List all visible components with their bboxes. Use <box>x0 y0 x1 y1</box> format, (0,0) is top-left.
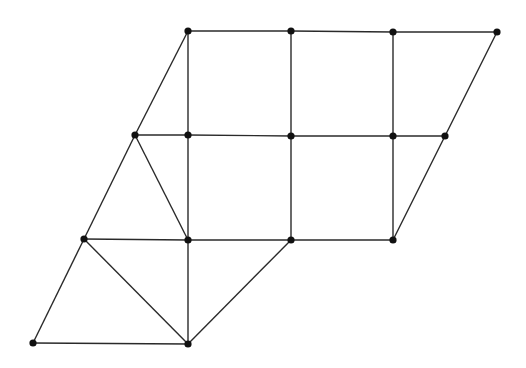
edge-e-j <box>84 135 135 239</box>
nodes-layer <box>29 27 500 347</box>
node-b <box>287 27 294 34</box>
edge-l-o <box>188 240 291 344</box>
edge-i-m <box>393 136 445 240</box>
node-h <box>389 132 396 139</box>
node-e <box>131 131 138 138</box>
node-k <box>184 236 191 243</box>
edge-d-i <box>445 32 497 136</box>
graph-diagram <box>0 0 526 368</box>
node-i <box>441 132 448 139</box>
node-l <box>287 236 294 243</box>
node-a <box>184 27 191 34</box>
node-c <box>389 28 396 35</box>
edge-a-e <box>135 31 188 135</box>
node-o <box>184 340 191 347</box>
node-j <box>80 235 87 242</box>
edge-j-o <box>84 239 188 344</box>
edge-j-n <box>33 239 84 343</box>
edges-layer <box>33 31 497 344</box>
graph-svg <box>0 0 526 368</box>
node-m <box>389 236 396 243</box>
edge-j-k <box>84 239 188 240</box>
edge-n-o <box>33 343 188 344</box>
edge-b-c <box>291 31 393 32</box>
node-f <box>184 131 191 138</box>
node-g <box>287 132 294 139</box>
edge-e-k <box>135 135 188 240</box>
edge-f-g <box>188 135 291 136</box>
node-n <box>29 339 36 346</box>
node-d <box>493 28 500 35</box>
